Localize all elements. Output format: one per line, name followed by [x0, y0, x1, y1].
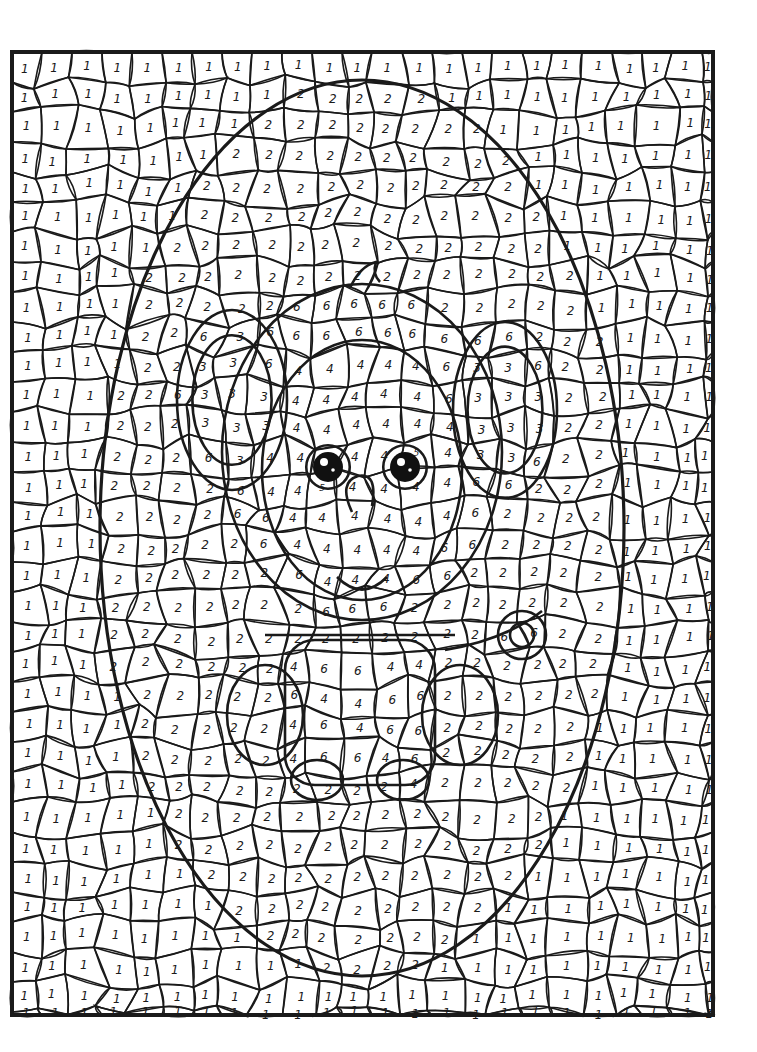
cell-number: 2: [296, 898, 304, 912]
cell-number: 1: [703, 660, 711, 674]
cell-number: 4: [267, 485, 275, 499]
cell-number: 2: [232, 238, 240, 252]
cell-number: 1: [80, 958, 88, 972]
cell-number: 2: [239, 870, 247, 884]
cell-number: 4: [323, 542, 331, 556]
cell-number: 2: [508, 242, 516, 256]
cell-number: 1: [379, 990, 387, 1004]
cell-number: 1: [704, 960, 712, 974]
cell-number: 2: [231, 537, 239, 551]
cell-number: 4: [289, 752, 297, 766]
cell-number: 1: [505, 931, 513, 945]
cell-number: 2: [565, 391, 573, 405]
cell-number: 4: [415, 658, 423, 672]
cell-number: 1: [83, 152, 91, 166]
cell-number: 1: [591, 90, 599, 104]
cell-number: 1: [145, 185, 153, 199]
cell-number: 2: [414, 807, 422, 821]
cell-number: 1: [702, 813, 710, 827]
cell-number: 1: [50, 929, 58, 943]
cell-number: 2: [559, 627, 567, 641]
cell-number: 2: [441, 933, 449, 947]
cell-number: 2: [532, 779, 540, 793]
cell-number: 2: [444, 721, 452, 735]
cell-number: 1: [593, 870, 601, 884]
cell-number: 2: [594, 570, 602, 584]
cell-number: 1: [652, 544, 660, 558]
cell-number: 1: [702, 873, 710, 887]
cell-number: 2: [203, 780, 211, 794]
cell-number: 1: [88, 537, 96, 551]
cell-number: 1: [704, 180, 712, 194]
cell-number: 2: [171, 568, 179, 582]
cell-number: 2: [146, 510, 154, 524]
cell-number: 1: [448, 91, 456, 105]
cell-number: 6: [320, 718, 328, 732]
cell-number: 2: [114, 450, 122, 464]
cell-number: 2: [205, 843, 213, 857]
cell-number: 2: [504, 869, 512, 883]
cell-number: 4: [289, 718, 297, 732]
cell-number: 1: [684, 180, 692, 194]
cell-number: 6: [260, 537, 268, 551]
cell-number: 1: [82, 571, 90, 585]
cell-number: 2: [356, 121, 364, 135]
cell-number: 2: [356, 178, 364, 192]
cell-number: 1: [652, 239, 660, 253]
cell-number: 1: [267, 959, 275, 973]
cell-number: 6: [380, 600, 388, 614]
cell-number: 1: [235, 959, 243, 973]
face-outline: [262, 340, 462, 600]
cell-number: 2: [143, 600, 151, 614]
cell-number: 1: [622, 1006, 630, 1020]
cell-number: 2: [297, 182, 305, 196]
cell-number: 1: [84, 689, 92, 703]
cell-number: 1: [23, 569, 31, 583]
cell-number: 2: [474, 901, 482, 915]
cell-number: 2: [411, 122, 419, 136]
cell-number: 1: [704, 89, 712, 103]
cell-number: 1: [24, 687, 32, 701]
cell-number: 1: [21, 91, 29, 105]
cell-number: 1: [86, 507, 94, 521]
cell-number: 2: [172, 542, 180, 556]
cell-number: 1: [89, 781, 97, 795]
cell-number: 2: [473, 844, 481, 858]
cell-number: 1: [686, 271, 694, 285]
cell-number: 4: [383, 543, 391, 557]
cell-number: 2: [328, 809, 336, 823]
cell-number: 1: [85, 176, 93, 190]
cell-number: 1: [26, 717, 34, 731]
cell-number: 1: [25, 450, 33, 464]
cell-number: 1: [594, 241, 602, 255]
cell-number: 2: [176, 689, 184, 703]
cell-number: 1: [653, 665, 661, 679]
cell-number: 2: [170, 326, 178, 340]
cell-number: 2: [145, 571, 153, 585]
cell-number: 1: [116, 808, 124, 822]
cell-number: 3: [201, 388, 209, 402]
cell-number: 1: [653, 419, 661, 433]
cell-number: 1: [653, 119, 661, 133]
cell-number: 1: [684, 875, 692, 889]
cell-number: 1: [653, 88, 661, 102]
cell-number: 1: [592, 183, 600, 197]
cell-number: 2: [534, 722, 542, 736]
cell-number: 1: [533, 124, 541, 138]
cell-number: 3: [260, 390, 268, 404]
cell-number: 2: [233, 181, 241, 195]
cell-number: 1: [681, 721, 689, 735]
cell-number: 1: [142, 991, 150, 1005]
cell-number: 1: [654, 900, 662, 914]
cell-number: 2: [470, 566, 478, 580]
cell-number: 1: [350, 990, 358, 1004]
cell-number: 1: [651, 812, 659, 826]
cell-number: 2: [329, 92, 337, 106]
cell-number: 2: [384, 959, 392, 973]
cell-number: 2: [504, 211, 512, 225]
cell-number: 1: [504, 963, 512, 977]
cell-number: 2: [381, 838, 389, 852]
cell-number: 1: [56, 300, 64, 314]
cell-number: 2: [354, 904, 362, 918]
cell-number: 2: [533, 538, 541, 552]
